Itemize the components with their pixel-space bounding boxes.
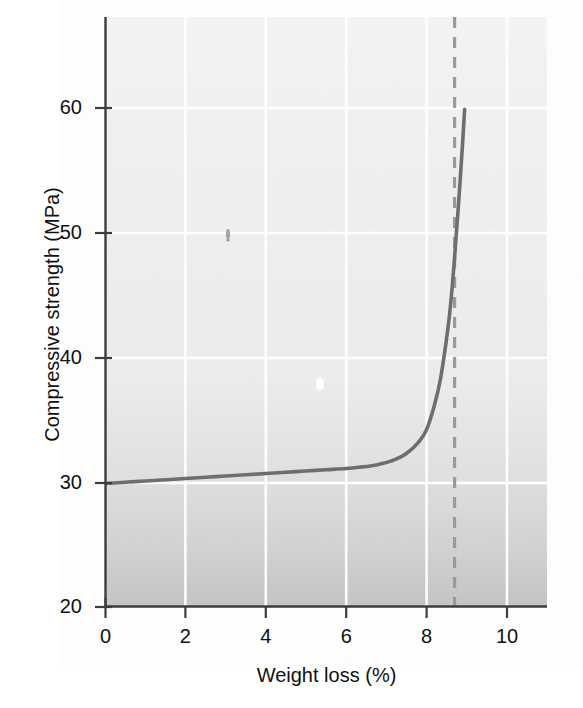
xtick-label-0: 0	[86, 625, 126, 648]
x-axis-title: Weight loss (%)	[105, 664, 548, 687]
y-axis-title: Compressive strength (MPa)	[41, 145, 64, 485]
xtick-label-10: 10	[487, 625, 527, 648]
xtick-label-6: 6	[326, 625, 366, 648]
ytick-label-60: 60	[42, 96, 82, 119]
chart-figure: 60 50 40 30 20 0 2 4 6 8 10 Compressive …	[0, 0, 583, 708]
xtick-label-8: 8	[407, 625, 447, 648]
xtick-label-2: 2	[165, 625, 205, 648]
compressive-strength-line-chart	[0, 0, 583, 708]
ytick-label-20: 20	[42, 595, 82, 618]
plot-background-texture	[105, 17, 547, 607]
xtick-label-4: 4	[246, 625, 286, 648]
